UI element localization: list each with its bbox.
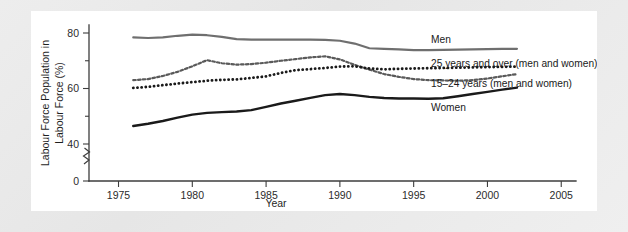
y-tick-label-group: 0406080 [67, 27, 79, 187]
y-tick-label: 80 [67, 27, 79, 39]
x-tick-label: 1980 [181, 189, 205, 201]
x-axis-group: 1975198019851990199520002005 [89, 181, 576, 201]
x-tick-group [119, 181, 562, 187]
x-tick-label-group: 1975198019851990199520002005 [107, 189, 573, 201]
x-tick-label: 1975 [107, 189, 131, 201]
y-tick-label: 40 [67, 138, 79, 150]
x-axis-title: Year [265, 197, 287, 209]
x-tick-label: 2005 [550, 189, 574, 201]
x-tick-label: 1990 [328, 189, 352, 201]
y-axis-group: 0406080 [67, 25, 89, 187]
y-axis-title-line1: Labour Force Population in [39, 40, 51, 166]
chart-panel: 0406080 1975198019851990199520002005 Men… [31, 11, 597, 211]
legend-label: 15–24 years (men and women) [431, 78, 572, 89]
line-chart: 0406080 1975198019851990199520002005 Men… [31, 11, 597, 211]
figure-root: 0406080 1975198019851990199520002005 Men… [0, 0, 628, 232]
legend-label: Women [431, 102, 466, 113]
y-tick-label: 0 [73, 175, 79, 187]
x-tick-label: 1995 [402, 189, 426, 201]
y-axis-title-line2: Labour Force (%) [53, 62, 65, 144]
series-line [133, 35, 517, 51]
legend-label: Men [431, 34, 451, 45]
x-tick-label: 2000 [476, 189, 500, 201]
y-tick-label: 60 [67, 82, 79, 94]
legend-label: 25 years and over (men and women) [431, 58, 597, 69]
